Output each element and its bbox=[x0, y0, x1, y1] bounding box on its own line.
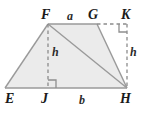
vertex-label-F: F bbox=[41, 8, 50, 22]
vertex-label-J: J bbox=[41, 92, 48, 106]
segment-label-b: b bbox=[79, 94, 85, 106]
geometry-figure: E F G K H J a b h h bbox=[0, 0, 141, 116]
vertex-label-E: E bbox=[5, 92, 14, 106]
segment-label-a: a bbox=[67, 10, 73, 22]
vertex-label-K: K bbox=[121, 8, 130, 22]
segment-label-h-left: h bbox=[52, 46, 59, 58]
vertex-label-G: G bbox=[88, 8, 98, 22]
segment-label-h-right: h bbox=[130, 46, 137, 58]
right-angle-K-icon bbox=[119, 24, 127, 32]
vertex-label-H: H bbox=[120, 92, 131, 106]
trapezoid-fill bbox=[5, 24, 127, 88]
